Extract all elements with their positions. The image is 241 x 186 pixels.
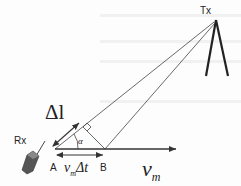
velocity-v: v [142,156,152,181]
rx-label: Rx [14,135,26,146]
velocity-sub: m [152,170,161,184]
point-b-label: B [100,162,107,173]
delta-l-label: Δl [45,100,64,125]
ray-to-a [55,22,214,149]
point-a-label: A [50,162,57,173]
delta-l-arrow [53,123,79,146]
doppler-geometry-diagram: Tx Rx A B Δl α vmΔt vm [0,0,241,186]
diagram-graphics [0,0,241,186]
transmitter-tower-icon [206,20,228,76]
tx-label: Tx [200,5,211,16]
perpendicular-line [83,127,105,149]
right-angle-icon [83,123,91,131]
ray-to-b [105,23,215,149]
displacement-label: vmΔt [64,160,88,178]
velocity-label: vm [142,156,160,185]
alpha-label: α [78,136,83,146]
displacement-rest: Δt [76,160,88,175]
